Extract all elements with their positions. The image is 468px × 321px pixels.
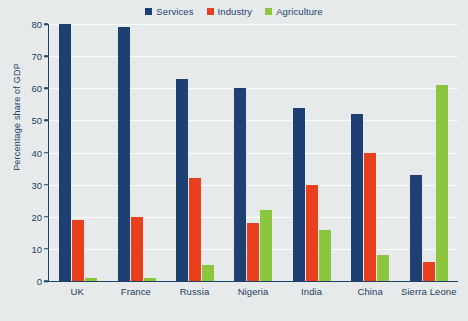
- legend-label: Services: [156, 6, 193, 17]
- y-tick-label: 60: [31, 83, 42, 94]
- bar-group-india: [283, 24, 341, 281]
- bar-services-nigeria: [234, 88, 246, 281]
- legend-label: Agriculture: [276, 6, 323, 17]
- bar-agriculture-russia: [202, 265, 214, 281]
- legend-entry-agriculture: Agriculture: [265, 6, 323, 17]
- y-tick-mark: [44, 55, 48, 57]
- x-tick-label-russia: Russia: [165, 286, 224, 297]
- bar-agriculture-india: [319, 230, 331, 281]
- bar-industry-uk: [72, 220, 84, 281]
- chart-legend: ServicesIndustryAgriculture: [0, 6, 468, 17]
- y-tick-label: 80: [31, 19, 42, 30]
- y-tick-mark: [44, 152, 48, 154]
- bar-groups: [49, 24, 458, 281]
- bar-agriculture-uk: [85, 278, 97, 281]
- bar-group-nigeria: [224, 24, 282, 281]
- legend-entry-services: Services: [145, 6, 193, 17]
- bar-industry-china: [364, 153, 376, 282]
- bar-agriculture-china: [377, 255, 389, 281]
- legend-swatch-icon: [265, 8, 272, 15]
- y-axis-title: Percentage share of GDP: [12, 42, 22, 192]
- legend-swatch-icon: [145, 8, 152, 15]
- bar-agriculture-sierra-leone: [436, 85, 448, 281]
- y-tick-label: 50: [31, 115, 42, 126]
- x-tick-label-china: China: [341, 286, 400, 297]
- bar-industry-nigeria: [247, 223, 259, 281]
- bar-services-france: [118, 27, 130, 281]
- y-tick-mark: [44, 280, 48, 282]
- y-tick-mark: [44, 184, 48, 186]
- y-tick-label: 30: [31, 179, 42, 190]
- x-tick-label-sierra-leone: Sierra Leone: [399, 286, 458, 297]
- bar-services-india: [293, 108, 305, 281]
- bar-services-sierra-leone: [410, 175, 422, 281]
- x-tick-label-uk: UK: [48, 286, 107, 297]
- bar-services-china: [351, 114, 363, 281]
- x-tick-label-india: India: [282, 286, 341, 297]
- bar-group-russia: [166, 24, 224, 281]
- legend-entry-industry: Industry: [207, 6, 253, 17]
- bar-group-china: [341, 24, 399, 281]
- y-tick-label: 20: [31, 211, 42, 222]
- y-tick-mark: [44, 248, 48, 250]
- x-tick-label-france: France: [107, 286, 166, 297]
- bar-industry-russia: [189, 178, 201, 281]
- chart-figure: ServicesIndustryAgriculture Percentage s…: [0, 0, 468, 321]
- y-tick-label: 40: [31, 147, 42, 158]
- y-tick-label: 10: [31, 243, 42, 254]
- bar-group-france: [107, 24, 165, 281]
- plot-area: 01020304050607080: [48, 24, 458, 282]
- y-tick-mark: [44, 120, 48, 122]
- x-axis-labels: UKFranceRussiaNigeriaIndiaChinaSierra Le…: [48, 286, 458, 297]
- y-tick-mark: [44, 88, 48, 90]
- bar-services-uk: [59, 24, 71, 281]
- bar-industry-sierra-leone: [423, 262, 435, 281]
- bar-services-russia: [176, 79, 188, 281]
- y-tick-mark: [44, 216, 48, 218]
- bar-industry-france: [131, 217, 143, 281]
- bar-group-sierra-leone: [400, 24, 458, 281]
- legend-label: Industry: [218, 6, 253, 17]
- bar-industry-india: [306, 185, 318, 281]
- y-tick-label: 70: [31, 51, 42, 62]
- bar-agriculture-nigeria: [260, 210, 272, 281]
- y-tick-label: 0: [37, 276, 42, 287]
- bar-agriculture-france: [144, 278, 156, 281]
- bar-group-uk: [49, 24, 107, 281]
- x-tick-label-nigeria: Nigeria: [224, 286, 283, 297]
- legend-swatch-icon: [207, 8, 214, 15]
- y-tick-mark: [44, 23, 48, 25]
